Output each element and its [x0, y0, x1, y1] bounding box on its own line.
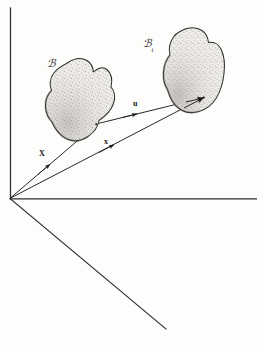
reference-position-vector-label: X [39, 150, 45, 158]
diagram-svg [0, 0, 257, 345]
current-configuration-label-text: ℬ [143, 37, 152, 50]
current-configuration-label-subscript: t [152, 46, 154, 53]
reference-configuration-body [45, 59, 114, 141]
displacement-vector-arrowhead [123, 114, 137, 117]
depth-axis [11, 199, 167, 329]
figure-canvas: ℬ ℬt X x u [0, 0, 257, 345]
reference-configuration-label: ℬ [47, 58, 56, 69]
reference-position-vector-arrowhead [38, 164, 50, 174]
reference-configuration-label-text: ℬ [47, 57, 56, 70]
displacement-vector-label: u [133, 100, 137, 108]
reference-material-point [95, 123, 97, 125]
current-configuration-label: ℬt [143, 38, 154, 52]
current-position-vector-label: x [104, 138, 108, 146]
